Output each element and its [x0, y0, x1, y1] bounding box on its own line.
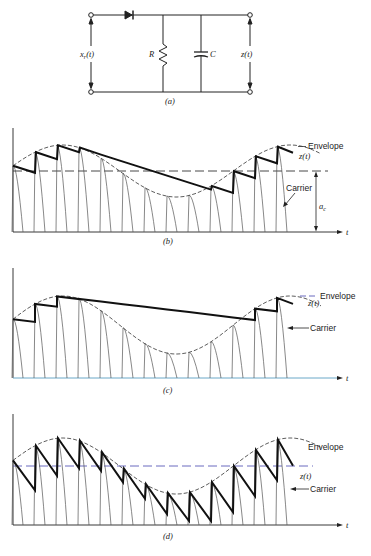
- output-label-d: z(t): [299, 471, 312, 481]
- output-terminal-bottom: [248, 90, 253, 95]
- diode-icon: [125, 11, 133, 20]
- caption-c: (c): [163, 385, 173, 395]
- input-terminal-top: [89, 13, 94, 18]
- waveform-panel-b: [12, 128, 343, 234]
- caption-a: (a): [165, 96, 175, 106]
- time-axis-label-b: t: [346, 227, 349, 237]
- output-label: z(t): [240, 49, 253, 59]
- envelope-label-c: Envelope: [320, 291, 356, 301]
- carrier-label-c: Carrier: [310, 323, 336, 333]
- caption-d: (d): [163, 531, 173, 541]
- capacitor-icon: [194, 15, 208, 92]
- output-terminal-top: [248, 13, 253, 18]
- resistor-label: R: [148, 49, 155, 59]
- waveform-panel-c: [12, 268, 343, 380]
- amplitude-label-b: ac: [319, 201, 326, 212]
- time-axis-label-c: t: [346, 373, 349, 383]
- input-terminal-bottom: [89, 90, 94, 95]
- output-label-c: z(t): [307, 298, 320, 308]
- time-axis-label-d: t: [346, 520, 349, 530]
- circuit-panel-a: [89, 11, 253, 95]
- caption-b: (b): [163, 236, 173, 246]
- capacitor-label: C: [210, 49, 216, 59]
- input-label: xr(t): [79, 49, 94, 60]
- envelope-detector-figure: xr(t) R C z(t) (a) Envelope z(t) Carrier…: [0, 0, 371, 556]
- envelope-label-b: Envelope: [308, 141, 344, 151]
- output-label-b: z(t): [298, 151, 311, 161]
- waveform-panel-d: [12, 414, 343, 527]
- envelope-label-d: Envelope: [308, 442, 344, 452]
- carrier-label-d: Carrier: [310, 484, 336, 494]
- carrier-label-b: Carrier: [286, 183, 312, 193]
- resistor-icon: [159, 15, 167, 92]
